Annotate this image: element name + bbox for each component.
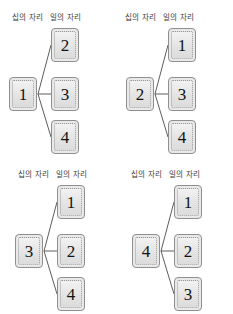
- digit-value: 3: [184, 286, 193, 303]
- ones-digit-card[interactable]: 2: [174, 234, 202, 268]
- ones-digit-card[interactable]: 4: [57, 277, 85, 311]
- ones-digit-card[interactable]: 1: [57, 185, 85, 219]
- diagram-tens-3: 십의 자리일의 자리 3 1 2 4: [0, 157, 116, 314]
- digit-value: 4: [61, 129, 70, 146]
- ones-digit-card[interactable]: 3: [174, 277, 202, 311]
- digit-value: 1: [19, 86, 28, 103]
- card-face: 4: [135, 237, 157, 265]
- ones-digit-card[interactable]: 2: [51, 28, 79, 62]
- ones-digit-card[interactable]: 4: [168, 120, 196, 154]
- digit-value: 4: [178, 129, 187, 146]
- tens-digit-card[interactable]: 2: [126, 77, 154, 111]
- card-face: 1: [60, 188, 82, 216]
- digit-value: 2: [61, 37, 70, 54]
- card-face: 3: [54, 80, 76, 108]
- card-face: 2: [177, 237, 199, 265]
- digit-value: 2: [184, 243, 193, 260]
- tens-digit-card[interactable]: 1: [9, 77, 37, 111]
- card-face: 3: [171, 80, 193, 108]
- ones-digit-card[interactable]: 1: [174, 185, 202, 219]
- card-face: 4: [60, 280, 82, 308]
- card-face: 3: [177, 280, 199, 308]
- ones-digit-card[interactable]: 1: [168, 28, 196, 62]
- digit-value: 4: [142, 243, 151, 260]
- ones-digit-card[interactable]: 4: [51, 120, 79, 154]
- digit-value: 3: [61, 86, 70, 103]
- tens-digit-card[interactable]: 3: [15, 234, 43, 268]
- card-face: 3: [18, 237, 40, 265]
- card-face: 1: [171, 31, 193, 59]
- digit-value: 3: [178, 86, 187, 103]
- digit-value: 3: [25, 243, 34, 260]
- digit-value: 1: [184, 194, 193, 211]
- diagram-tens-2: 십의 자리일의 자리 2 1 3 4: [117, 0, 233, 157]
- digit-value: 1: [178, 37, 187, 54]
- tens-digit-card[interactable]: 4: [132, 234, 160, 268]
- card-face: 1: [177, 188, 199, 216]
- ones-digit-card[interactable]: 2: [57, 234, 85, 268]
- card-face: 4: [171, 123, 193, 151]
- digit-value: 1: [67, 194, 76, 211]
- digit-value: 2: [136, 86, 145, 103]
- card-face: 4: [54, 123, 76, 151]
- ones-digit-card[interactable]: 3: [51, 77, 79, 111]
- diagram-tens-4: 십의 자리일의 자리 4 1 2 3: [117, 157, 233, 314]
- card-face: 2: [60, 237, 82, 265]
- card-face: 2: [54, 31, 76, 59]
- ones-digit-card[interactable]: 3: [168, 77, 196, 111]
- digit-value: 2: [67, 243, 76, 260]
- diagram-tens-1: 십의 자리일의 자리 1 2 3 4: [0, 0, 116, 157]
- card-face: 2: [129, 80, 151, 108]
- card-face: 1: [12, 80, 34, 108]
- digit-value: 4: [67, 286, 76, 303]
